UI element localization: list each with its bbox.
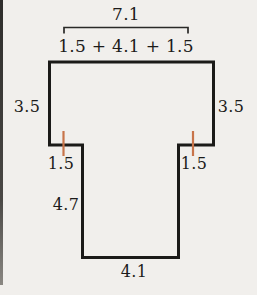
left-height-label: 3.5: [14, 99, 40, 115]
top-total-label: 7.1: [112, 6, 140, 23]
left-notch-label: 1.5: [48, 156, 74, 172]
bottom-width-label: 4.1: [121, 264, 147, 280]
right-height-label: 3.5: [218, 99, 244, 115]
stem-height-label: 4.7: [53, 197, 79, 213]
top-measure-bracket: [64, 28, 188, 34]
figure-canvas: 7.1 1.5 + 4.1 + 1.5 3.5 3.5 1.5 1.5 4.7 …: [0, 0, 257, 295]
right-notch-label: 1.5: [181, 156, 207, 172]
top-sum-label: 1.5 + 4.1 + 1.5: [58, 38, 194, 55]
